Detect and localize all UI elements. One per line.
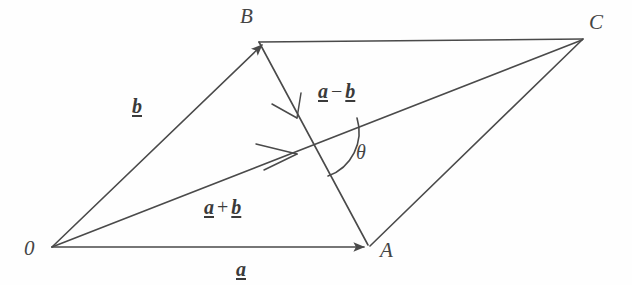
vector-label-difference-operator: − xyxy=(328,80,345,102)
midpoint-arrow-a-minus-b xyxy=(272,93,301,118)
theta-arc xyxy=(328,118,359,176)
point-label-b: B xyxy=(240,6,253,27)
vector-label-difference-addend: b xyxy=(345,80,355,102)
point-label-c: C xyxy=(589,12,603,33)
vector-label-b-text: b xyxy=(132,95,142,117)
diagram-canvas: 0 A B C b a a+b a−b θ xyxy=(0,0,632,285)
angle-label-theta: θ xyxy=(356,142,366,162)
edge-side-ac xyxy=(370,39,583,246)
vector-label-a-text: a xyxy=(236,258,246,280)
edge-vector-a-plus-b xyxy=(52,40,582,247)
vector-label-sum-addend: b xyxy=(231,196,241,218)
vector-label-b: b xyxy=(132,96,142,116)
vector-parallelogram-svg xyxy=(0,0,632,285)
vector-label-sum-operator: + xyxy=(214,196,231,218)
point-label-a: A xyxy=(380,240,393,261)
edge-side-bc xyxy=(259,39,583,42)
edge-vector-a-minus-b xyxy=(259,42,368,245)
vector-label-difference-base: a xyxy=(318,80,328,102)
midpoint-arrow-a-plus-b xyxy=(256,144,297,170)
point-label-origin: 0 xyxy=(24,238,35,259)
vector-label-sum-base: a xyxy=(204,196,214,218)
vector-label-difference: a−b xyxy=(318,81,355,101)
vector-label-sum: a+b xyxy=(204,197,241,217)
vector-label-a: a xyxy=(236,259,246,279)
